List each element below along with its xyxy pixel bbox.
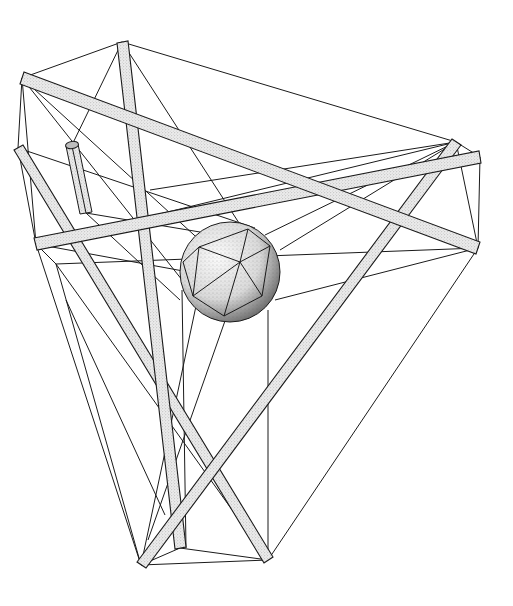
cable — [18, 78, 22, 148]
cable — [478, 157, 480, 248]
cable — [36, 244, 141, 565]
cable — [180, 548, 268, 560]
cable — [141, 560, 268, 565]
tensegrity-figure: Tensegrity structure with suspended sphe… — [0, 0, 513, 606]
geodesic-sphere — [180, 222, 280, 322]
tensegrity-drawing — [0, 0, 513, 606]
cable — [268, 248, 478, 560]
small-cylinder — [65, 141, 92, 214]
cable — [56, 264, 141, 565]
